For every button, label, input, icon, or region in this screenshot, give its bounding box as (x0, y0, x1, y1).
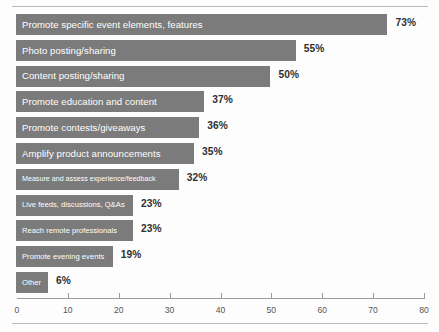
plot-area: Promote specific event elements, feature… (0, 14, 439, 286)
x-axis-tick (68, 293, 69, 299)
bar-category-label: Other (16, 279, 47, 287)
bar-row: Photo posting/sharing55% (0, 40, 439, 61)
bar: Promote contests/giveaways (16, 117, 199, 138)
bar-row: Other6% (0, 272, 439, 293)
bottom-divider-rule (12, 323, 428, 324)
bar: Promote specific event elements, feature… (16, 14, 387, 35)
bar-value-label: 37% (212, 94, 233, 105)
bar-category-label: Live feeds, discussions, Q&As (16, 201, 131, 209)
x-axis-tick (373, 293, 374, 299)
bar: Content posting/sharing (16, 66, 270, 87)
x-axis-tick-label: 80 (419, 305, 429, 315)
bar-category-label: Content posting/sharing (16, 71, 130, 81)
bar-value-label: 23% (141, 198, 162, 209)
bar-category-label: Promote specific event elements, feature… (16, 20, 209, 30)
bar-category-label: Promote contests/giveaways (16, 123, 151, 133)
bar: Other (16, 272, 48, 293)
bar-value-label: 6% (56, 275, 71, 286)
bar-value-label: 55% (304, 43, 325, 54)
bar-value-label: 50% (278, 69, 299, 80)
bar-row: Reach remote professionals23% (0, 220, 439, 241)
bar: Promote evening events (16, 246, 113, 267)
bar-value-label: 35% (202, 146, 223, 157)
bar-row: Promote evening events19% (0, 246, 439, 267)
bar-category-label: Promote education and content (16, 97, 163, 107)
bar: Live feeds, discussions, Q&As (16, 195, 133, 216)
x-axis-tick-label: 50 (267, 305, 277, 315)
bar: Photo posting/sharing (16, 40, 296, 61)
bar-value-label: 73% (395, 17, 416, 28)
x-axis-tick (119, 293, 120, 299)
bar: Measure and assess experience/feedback (16, 169, 179, 190)
x-axis-tick-label: 60 (317, 305, 327, 315)
bar: Reach remote professionals (16, 220, 133, 241)
bar-category-label: Measure and assess experience/feedback (16, 176, 162, 183)
bar-value-label: 19% (121, 249, 142, 260)
bar: Promote education and content (16, 91, 204, 112)
bar-row: Promote education and content37% (0, 91, 439, 112)
x-axis-tick (221, 293, 222, 299)
bar: Amplify product announcements (16, 143, 194, 164)
x-axis-tick (271, 293, 272, 299)
bar-category-label: Amplify product announcements (16, 149, 167, 159)
bar-value-label: 36% (207, 120, 228, 131)
bar-value-label: 23% (141, 223, 162, 234)
x-axis-tick-label: 10 (63, 305, 73, 315)
bar-row: Measure and assess experience/feedback32… (0, 169, 439, 190)
x-axis-tick-label: 0 (15, 305, 20, 315)
bar-row: Promote contests/giveaways36% (0, 117, 439, 138)
bar-value-label: 32% (187, 172, 208, 183)
x-axis: 01020304050607080 (0, 298, 439, 300)
bar-row: Promote specific event elements, feature… (0, 14, 439, 35)
top-divider-rule (12, 6, 428, 7)
bar-category-label: Promote evening events (16, 253, 110, 261)
bar-row: Amplify product announcements35% (0, 143, 439, 164)
x-axis-tick-label: 30 (165, 305, 175, 315)
bar-category-label: Photo posting/sharing (16, 46, 122, 56)
bar-row: Live feeds, discussions, Q&As23% (0, 195, 439, 216)
x-axis-tick (322, 293, 323, 299)
x-axis-tick (170, 293, 171, 299)
x-axis-tick-label: 70 (368, 305, 378, 315)
x-axis-tick-label: 20 (114, 305, 124, 315)
bar-chart: Promote specific event elements, feature… (0, 0, 439, 332)
x-axis-tick (424, 293, 425, 299)
x-axis-tick-label: 40 (216, 305, 226, 315)
bar-category-label: Reach remote professionals (16, 227, 123, 235)
bar-row: Content posting/sharing50% (0, 66, 439, 87)
